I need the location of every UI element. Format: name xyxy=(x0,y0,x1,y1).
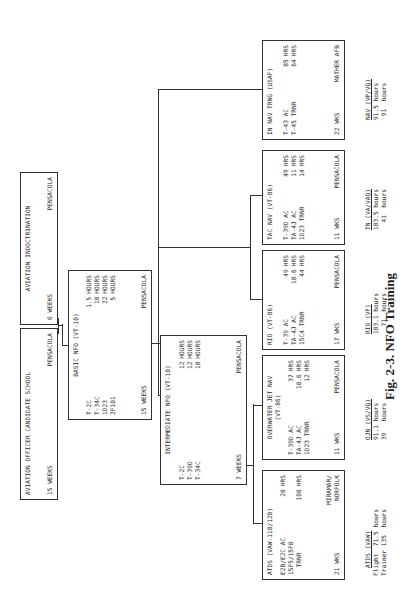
intermediate-duration: 7 WEEKS xyxy=(235,454,243,480)
tacnav-duration: 11 WKS xyxy=(333,218,341,240)
connector-high-branch xyxy=(158,90,159,396)
intermediate-row: T-34C10HOURS xyxy=(194,340,202,480)
connector-innav xyxy=(158,89,262,90)
intermediate-row: T-2C12HOURS xyxy=(178,340,186,480)
atds-row: TRNR108HRS xyxy=(295,475,303,575)
basic-duration: 15 WEEKS xyxy=(140,385,148,415)
innav-location: MATHER AFB xyxy=(333,45,341,82)
ojn-row: 1D23 TRNR12HRS xyxy=(303,360,311,455)
rio-title: RIO (VT-86) xyxy=(266,255,274,345)
connector-aocs-indoc-h xyxy=(58,318,59,334)
connector-tacnav xyxy=(250,195,262,196)
innav-summary-title: NAV (VP/VQ) xyxy=(364,79,372,120)
indoc-location: PENSACOLA xyxy=(46,177,54,211)
basic-location: PENSACOLA xyxy=(140,275,148,309)
box-atds: ATDS (VAW-110/120) E2B/E2C AC28HRS 15F5/… xyxy=(262,470,345,580)
figure-caption: Fig. 2-3. NFO Training xyxy=(382,273,398,400)
basic-row: 1D2322HOURS xyxy=(101,275,109,415)
ojn-row: TA-4J AC10.6HRS xyxy=(295,360,303,455)
box-tac-nav: TAC NAV (VT-86) T-39D AC49HRS TA-4J AC11… xyxy=(262,150,345,245)
aocs-duration: 15 WEEKS xyxy=(46,465,54,495)
rio-row: 15C4 TRNR44HRS xyxy=(298,255,306,345)
innav-row: T-43 AC85HRS xyxy=(282,45,290,135)
tacnav-row: 1D23 TRNR14HRS xyxy=(298,155,306,240)
atds-duration: 21 WKS xyxy=(333,553,341,575)
connector-ojn xyxy=(253,405,262,406)
atds-title: ATDS (VAW-110/120) xyxy=(266,475,274,575)
connector-atds-h xyxy=(253,464,254,524)
ojn-summary: OJN (VS/VQ)91.1 hours 39 hours xyxy=(348,399,388,440)
atds-row: E2B/E2C AC28HRS xyxy=(279,475,287,575)
rio-summary-title: RIO (VF) xyxy=(364,293,372,334)
ojn-row: T-39D AC37HRS xyxy=(287,360,295,455)
atds-row: 15F5/15F8 xyxy=(287,475,295,575)
rio-row: T-39 AC49HRS xyxy=(282,255,290,345)
box-overwater-jet-nav: OVERWATER JET NAV (VT-86) T-39D AC37HRS … xyxy=(262,355,345,460)
ojn-title-1: OVERWATER JET NAV xyxy=(266,360,274,455)
connector-branch-low xyxy=(253,404,254,466)
ojn-summary-title: OJN (VS/VQ) xyxy=(364,399,372,440)
atds-summary: ATDS (VAW)Flight 71.5 hours Trainer 135 … xyxy=(348,509,388,576)
innav-title: IN NAV TRNG (USAF) xyxy=(266,45,274,135)
tacnav-summary-title: TN (VA/VAQ) xyxy=(364,189,372,230)
connector-rio-tn-h xyxy=(250,196,251,300)
innav-duration: 22 WKS xyxy=(333,113,341,135)
box-aviation-indoctrination: AVIATION INDOCTRINATION 6 WEEKS PENSACOL… xyxy=(20,172,58,325)
ojn-duration: 11 WKS xyxy=(333,433,341,455)
indoc-title: AVIATION INDOCTRINATION xyxy=(24,177,32,320)
tacnav-row: T-39D AC49HRS xyxy=(282,155,290,240)
ojn-location: PENSACOLA xyxy=(333,360,341,394)
basic-row: T-34C10HOURS xyxy=(93,275,101,415)
box-basic-nfo: BASIC NFO (VT-10) T-2C1.5HOURS T-34C10HO… xyxy=(68,270,152,420)
basic-title: BASIC NFO (VT-10) xyxy=(72,275,80,415)
tacnav-row: TA-4J AC11HRS xyxy=(290,155,298,240)
connector-indoc-basic xyxy=(62,324,63,346)
rio-duration: 17 WKS xyxy=(333,323,341,345)
aocs-title: AVIATION OFFICER CANDIDATE SCHOOL xyxy=(24,333,32,495)
intermediate-row: T-39D12HOURS xyxy=(186,340,194,480)
box-in-nav-trng: IN NAV TRNG (USAF) T-43 AC85HRS T-45 TRN… xyxy=(262,40,345,140)
connector-rio xyxy=(250,299,262,300)
box-intermediate-nfo: INTERMEDIATE NFO (VT-10) T-2C12HOURS T-3… xyxy=(160,335,247,485)
atds-location-1: MIRAMAR/ xyxy=(325,475,333,505)
box-rio: RIO (VT-86) T-39 AC49HRS TA-4J AC10.6HRS… xyxy=(262,250,345,350)
nfo-training-diagram: AVIATION OFFICER CANDIDATE SCHOOL 15 WEE… xyxy=(0,0,417,596)
connector-rio-tn-trunk xyxy=(158,247,250,248)
basic-row: T-2C1.5HOURS xyxy=(85,275,93,415)
tacnav-title: TAC NAV (VT-86) xyxy=(266,155,274,240)
connector-atds xyxy=(253,523,262,524)
intermediate-location: PENSACOLA xyxy=(235,340,243,374)
rio-location: PENSACOLA xyxy=(333,255,341,289)
box-aocs: AVIATION OFFICER CANDIDATE SCHOOL 15 WEE… xyxy=(20,328,58,500)
basic-row: 2F1015HOURS xyxy=(109,275,117,415)
atds-summary-title: ATDS (VAW) xyxy=(364,509,372,576)
ojn-title-2: (VT-86) xyxy=(274,360,282,455)
intermediate-title: INTERMEDIATE NFO (VT-10) xyxy=(164,340,172,480)
tacnav-location: PENSACOLA xyxy=(333,155,341,189)
atds-location-2: NORFOLK xyxy=(333,475,341,501)
aocs-location: PENSACOLA xyxy=(46,333,54,367)
indoc-duration: 6 WEEKS xyxy=(46,294,54,320)
tacnav-summary: TN (VA/VAQ)103.5 hours 41 hours xyxy=(348,189,388,230)
rio-row: TA-4J AC10.6HRS xyxy=(290,255,298,345)
innav-summary: NAV (VP/VQ)91.5 hours 91 hours xyxy=(348,79,388,120)
innav-row: T-45 TRNR64HRS xyxy=(290,45,298,135)
